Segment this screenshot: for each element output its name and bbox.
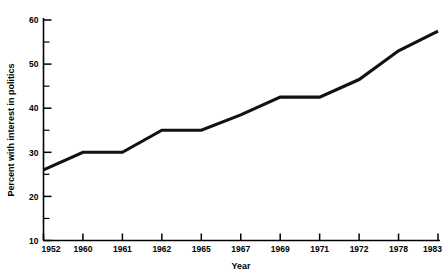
chart-canvas: 102030405060 195219601961196219651967196…	[0, 0, 448, 276]
y-tick-label: 40	[29, 103, 39, 113]
x-tick-label: 1983	[423, 244, 442, 254]
y-tick-label: 60	[29, 15, 39, 25]
chart-background	[0, 0, 448, 276]
x-tick-label: 1969	[271, 244, 290, 254]
x-tick-label: 1961	[113, 244, 132, 254]
x-tick-label: 1971	[310, 244, 329, 254]
x-axis-title: Year	[231, 261, 251, 271]
y-tick-label: 30	[29, 148, 39, 158]
x-tick-label: 1978	[389, 244, 408, 254]
y-axis-title: Percent with interest in politics	[6, 63, 16, 196]
x-tick-label: 1965	[192, 244, 211, 254]
x-tick-label: 1962	[152, 244, 171, 254]
x-tick-label: 1967	[231, 244, 250, 254]
line-chart: 102030405060 195219601961196219651967196…	[0, 0, 448, 276]
x-tick-label: 1952	[42, 244, 61, 254]
x-tick-label: 1960	[73, 244, 92, 254]
y-tick-label: 50	[29, 59, 39, 69]
y-tick-label: 10	[29, 236, 39, 246]
x-tick-label: 1972	[350, 244, 369, 254]
y-tick-label: 20	[29, 192, 39, 202]
